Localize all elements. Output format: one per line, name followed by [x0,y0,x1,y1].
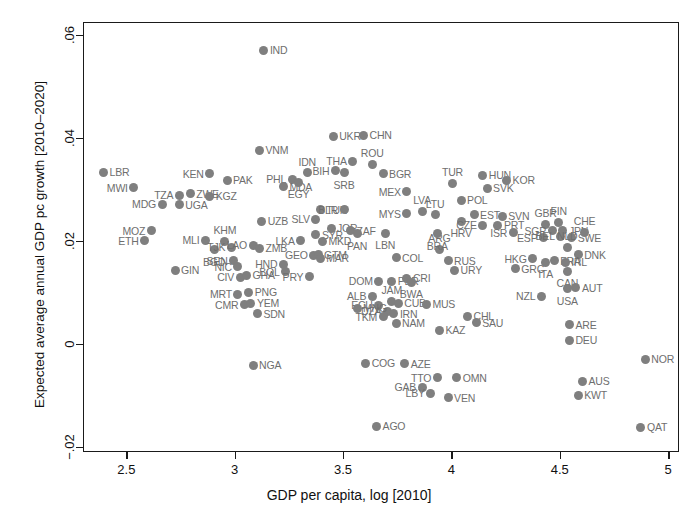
data-point-uzb[interactable] [257,217,266,226]
data-point-grc[interactable] [511,264,520,273]
data-point-cog[interactable] [361,359,370,368]
data-point-zwe[interactable] [186,189,195,198]
data-point-aus[interactable] [578,377,587,386]
data-point-usa[interactable] [563,284,572,293]
data-point-svk[interactable] [483,184,492,193]
data-point-aze[interactable] [400,359,409,368]
data-point-mdg[interactable] [158,200,167,209]
data-point-mys[interactable] [402,209,411,218]
data-point-egy[interactable] [294,178,303,187]
point-label-deu: DEU [575,335,597,346]
data-point-bgr[interactable] [379,169,388,178]
data-point-ago[interactable] [372,422,381,431]
point-label-ury: URY [461,265,482,276]
point-label-uga: UGA [185,200,207,211]
data-point-eth[interactable] [140,236,149,245]
data-point-yem[interactable] [246,299,255,308]
data-point-gha[interactable] [242,271,251,280]
data-point-tza[interactable] [175,191,184,200]
data-point-mng[interactable] [353,304,362,313]
data-point-ukr[interactable] [329,132,338,141]
data-point-irl[interactable] [561,258,570,267]
data-point-aut[interactable] [571,283,580,292]
data-point-lbr[interactable] [99,168,108,177]
data-point-fra[interactable] [550,256,559,265]
data-point-mar[interactable] [316,254,325,263]
data-point-irn[interactable] [389,309,398,318]
data-point-mus[interactable] [422,300,431,309]
data-point-can[interactable] [563,267,572,276]
data-point-blr[interactable] [340,205,349,214]
data-point-est[interactable] [470,210,479,219]
data-point-gin[interactable] [171,266,180,275]
data-point-tha[interactable] [348,157,357,166]
data-point-rus[interactable] [444,256,453,265]
data-point-tto[interactable] [433,373,442,382]
data-point-uga[interactable] [175,200,184,209]
data-point-chl[interactable] [463,312,472,321]
data-point-chn[interactable] [359,131,368,140]
data-point-cub[interactable] [394,299,403,308]
data-point-sau[interactable] [472,318,481,327]
data-point-deu[interactable] [565,336,574,345]
data-point-ven[interactable] [444,393,453,402]
data-point-nld[interactable] [563,243,572,252]
data-point-pol[interactable] [457,196,466,205]
data-point-ury[interactable] [450,266,459,275]
data-point-ltu[interactable] [431,210,440,219]
data-point-bra[interactable] [433,229,442,238]
y-tick-label: .04 [62,121,77,155]
data-point-nor[interactable] [641,355,650,364]
data-point-kor[interactable] [502,176,511,185]
data-point-idn[interactable] [303,168,312,177]
data-point-bih[interactable] [331,166,340,175]
data-point-hun[interactable] [478,171,487,180]
data-point-rou[interactable] [368,160,377,169]
data-point-ita[interactable] [541,258,550,267]
data-point-ind[interactable] [259,46,268,55]
data-point-pak[interactable] [223,176,232,185]
data-point-kaz[interactable] [435,326,444,335]
data-point-tur[interactable] [448,179,457,188]
data-point-png[interactable] [244,288,253,297]
point-label-egy: EGY [288,189,310,200]
data-point-mda[interactable] [279,182,288,191]
point-label-sdn: SDN [263,309,285,320]
data-point-cze[interactable] [478,221,487,230]
data-point-nzl[interactable] [537,292,546,301]
data-point-mex[interactable] [402,187,411,196]
data-point-vnm[interactable] [255,146,264,155]
y-tick-mark [76,344,83,345]
data-point-mrt[interactable] [233,290,242,299]
data-point-lbn[interactable] [381,229,390,238]
data-point-pan[interactable] [353,229,362,238]
point-label-sau: SAU [482,318,503,329]
data-point-col[interactable] [392,253,401,262]
data-point-omn[interactable] [452,373,461,382]
data-point-mwi[interactable] [129,183,138,192]
data-point-moz[interactable] [147,226,156,235]
point-label-qat: QAT [647,422,667,433]
data-point-lby[interactable] [426,389,435,398]
point-label-ltu: LTU [426,199,444,210]
data-point-che[interactable] [580,228,589,237]
data-point-nic[interactable] [233,262,242,271]
data-point-bwa[interactable] [407,278,416,287]
data-point-ken[interactable] [205,169,214,178]
data-point-zmb[interactable] [255,244,264,253]
y-tick-mark [76,35,83,36]
data-point-lka[interactable] [296,236,305,245]
data-point-qat[interactable] [636,423,645,432]
data-point-slv[interactable] [311,215,320,224]
data-point-nam[interactable] [392,319,401,328]
point-label-are: ARE [575,320,596,331]
data-point-jor[interactable] [327,224,336,233]
data-point-nga[interactable] [249,361,258,370]
data-point-kwt[interactable] [574,391,583,400]
data-point-pry[interactable] [305,272,314,281]
data-point-sdn[interactable] [253,309,262,318]
data-point-kgz[interactable] [205,192,214,201]
data-point-mkd[interactable] [318,237,327,246]
data-point-are[interactable] [565,320,574,329]
data-point-srb[interactable] [340,168,349,177]
